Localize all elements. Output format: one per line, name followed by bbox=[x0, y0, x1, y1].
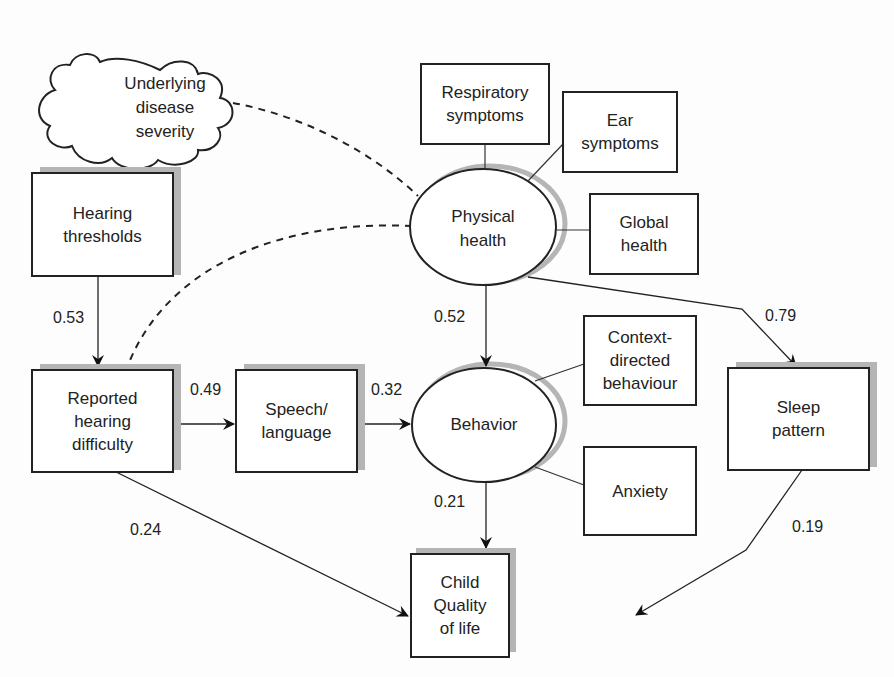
speech-language-box: Speech/language bbox=[235, 369, 358, 473]
coef-sleep-qol: 0.19 bbox=[792, 518, 823, 536]
respiratory-symptoms-box: Respiratorysymptoms bbox=[420, 63, 550, 145]
coef-physical-behavior: 0.52 bbox=[434, 308, 465, 326]
anxiety-box: Anxiety bbox=[583, 446, 697, 536]
underlying-disease-label: Underlying disease severity bbox=[105, 72, 225, 144]
behavior-label: Behavior bbox=[424, 413, 544, 437]
ear-symptoms-box: Earsymptoms bbox=[562, 91, 678, 173]
coef-reported-speech: 0.49 bbox=[190, 381, 221, 399]
coef-hearing-reported: 0.53 bbox=[53, 309, 84, 327]
coef-behavior-qol: 0.21 bbox=[434, 493, 465, 511]
coef-reported-qol: 0.24 bbox=[130, 521, 161, 539]
coef-speech-behavior: 0.32 bbox=[371, 381, 402, 399]
context-directed-box: Context-directedbehaviour bbox=[583, 315, 697, 406]
dashed-link-disease-physical bbox=[233, 103, 418, 196]
coef-physical-sleep: 0.79 bbox=[765, 307, 796, 325]
global-health-box: Globalhealth bbox=[589, 193, 699, 275]
hearing-thresholds-box: Hearingthresholds bbox=[31, 172, 174, 277]
physical-health-label: Physical health bbox=[423, 205, 543, 253]
sleep-pattern-box: Sleeppattern bbox=[727, 367, 870, 471]
child-qol-box: ChildQualityof life bbox=[410, 553, 510, 658]
reported-hearing-box: Reportedhearingdifficulty bbox=[31, 369, 174, 473]
